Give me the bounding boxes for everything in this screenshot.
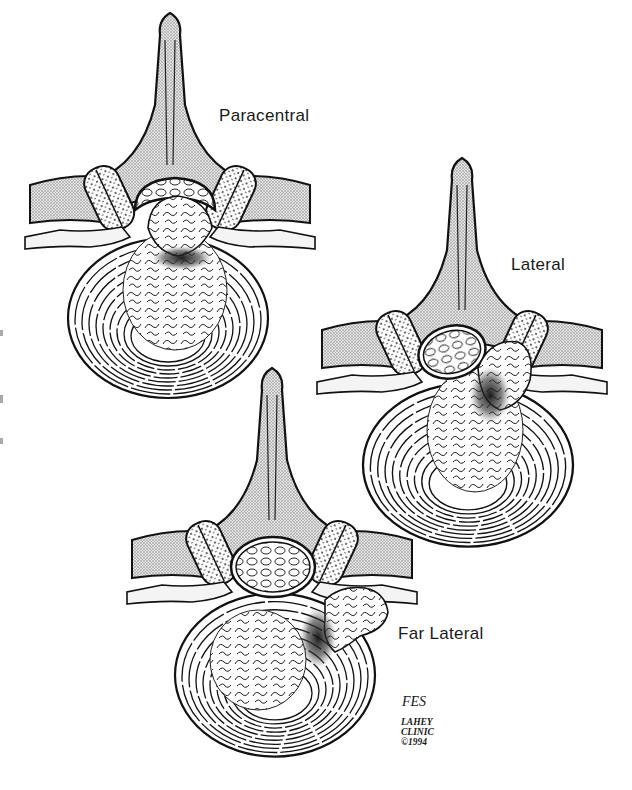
scan-edge-mark <box>0 330 3 336</box>
herniation-diagram <box>0 0 632 790</box>
credit-line-3: ©1994 <box>401 737 434 747</box>
lateral-illustration <box>317 158 607 547</box>
paracentral-illustration <box>25 13 315 398</box>
credit-line-1: LAHEY <box>401 717 434 727</box>
label-paracentral: Paracentral <box>219 106 309 126</box>
artist-signature: FES <box>402 694 426 710</box>
credit-line-2: CLINIC <box>401 727 434 737</box>
label-far-lateral: Far Lateral <box>398 624 484 644</box>
scan-edge-mark <box>0 395 3 403</box>
far-lateral-illustration <box>127 368 417 757</box>
scan-edge-mark <box>0 438 3 444</box>
credit-block: LAHEY CLINIC ©1994 <box>401 717 434 747</box>
label-lateral: Lateral <box>511 255 565 275</box>
